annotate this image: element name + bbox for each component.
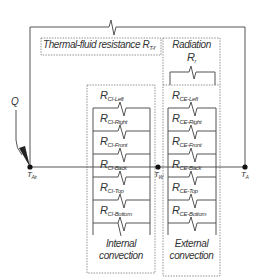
resistor-ci-right: RCI-Right bbox=[100, 112, 127, 125]
resistor-ci-top: RCI-Top bbox=[100, 181, 124, 194]
resistor-ci-front: RCI-Front bbox=[100, 135, 127, 148]
thermal-fluid-label: Thermal-fluid resistance RT-f bbox=[43, 39, 155, 51]
resistor-ce-back: RCE-Back bbox=[172, 158, 201, 171]
internal-convection-caption: Internal convection bbox=[87, 238, 155, 262]
radiation-title: Radiation bbox=[163, 39, 220, 50]
resistor-ce-bottom: RCE-Bottom bbox=[172, 204, 206, 217]
q-label: Q bbox=[11, 96, 18, 107]
heat-input-arrow bbox=[16, 110, 30, 167]
radiation-resistor-label: Rr bbox=[163, 51, 220, 64]
resistor-ce-front: RCE-Front bbox=[172, 135, 201, 148]
external-convection-caption: External convection bbox=[163, 238, 220, 262]
radiation-resistor bbox=[170, 66, 215, 85]
resistor-ci-left: RCI-Left bbox=[100, 89, 123, 102]
resistor-ce-right: RCE-Right bbox=[172, 112, 202, 125]
node-air-label: TAir bbox=[27, 170, 36, 180]
resistor-ci-bottom: RCI-Bottom bbox=[100, 204, 132, 217]
node-wall bbox=[155, 164, 160, 169]
resistor-ci-back: RCI-Back bbox=[100, 158, 127, 171]
node-air bbox=[27, 164, 32, 169]
node-ambient-label: TA bbox=[241, 170, 248, 180]
resistor-ce-top: RCE-Top bbox=[172, 181, 198, 194]
resistor-ce-left: RCE-Left bbox=[172, 89, 198, 102]
node-ambient bbox=[242, 164, 247, 169]
node-wall-label: TW bbox=[154, 170, 163, 180]
